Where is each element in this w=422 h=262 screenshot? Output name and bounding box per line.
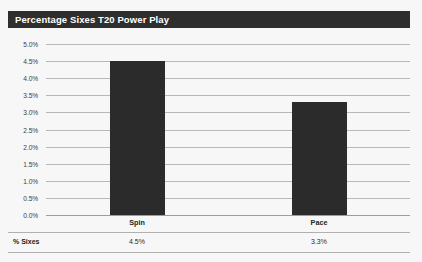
y-axis-tick-label: 1.5% <box>23 160 38 167</box>
gridline <box>46 44 410 45</box>
table-cell-value: 4.5% <box>129 238 145 245</box>
y-axis-tick-label: 1.0% <box>23 177 38 184</box>
gridline <box>46 95 410 96</box>
y-axis-tick-label: 3.0% <box>23 109 38 116</box>
x-axis-category-label: Spin <box>129 218 145 227</box>
gridline <box>46 164 410 165</box>
table-row-label: % Sixes <box>13 238 39 245</box>
y-axis-tick-label: 4.0% <box>23 75 38 82</box>
y-axis-tick-label: 0.0% <box>23 212 38 219</box>
table-cell-value: 3.3% <box>311 238 327 245</box>
chart-canvas: Percentage Sixes T20 Power Play 0.0%0.5%… <box>0 0 422 262</box>
y-axis-tick-label: 2.0% <box>23 143 38 150</box>
chart-data-table: % Sixes 4.5%3.3% <box>8 232 410 254</box>
gridline <box>46 181 410 182</box>
y-axis-tick-label: 5.0% <box>23 41 38 48</box>
x-axis-category-labels: SpinPace <box>46 216 410 232</box>
table-rule-bottom <box>8 252 410 253</box>
table-rule-top <box>8 232 410 233</box>
bar <box>110 61 165 215</box>
y-axis-tick-label: 0.5% <box>23 194 38 201</box>
y-axis-tick-labels: 0.0%0.5%1.0%1.5%2.0%2.5%3.0%3.5%4.0%4.5%… <box>0 44 42 215</box>
gridline <box>46 78 410 79</box>
gridline <box>46 61 410 62</box>
y-axis-tick-label: 4.5% <box>23 58 38 65</box>
y-axis-tick-label: 2.5% <box>23 126 38 133</box>
gridline <box>46 198 410 199</box>
chart-title-bar: Percentage Sixes T20 Power Play <box>8 11 410 28</box>
gridline <box>46 112 410 113</box>
gridline <box>46 130 410 131</box>
plot-area <box>46 44 410 215</box>
x-axis-category-label: Pace <box>311 218 328 227</box>
chart-title: Percentage Sixes T20 Power Play <box>8 14 169 25</box>
bar <box>292 102 347 215</box>
gridline <box>46 147 410 148</box>
y-axis-tick-label: 3.5% <box>23 92 38 99</box>
